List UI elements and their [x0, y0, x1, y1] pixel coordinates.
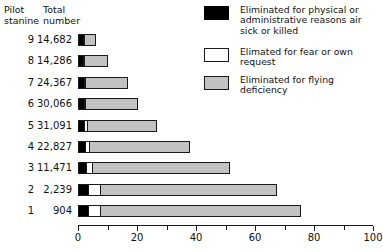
bar-stanine-5: [78, 120, 156, 132]
legend-label-physical: Eliminated for physical or administrativ…: [240, 5, 362, 36]
column-header-total-number: Total number: [43, 4, 80, 26]
legend-label-flying: Eliminated for flying deficiency: [240, 75, 334, 96]
legend-label-fear: Elimated for fear or own request: [240, 47, 353, 68]
x-axis-tick: [196, 226, 197, 231]
row-label-stanine: 8: [0, 56, 34, 66]
row-label-stanine: 7: [0, 78, 34, 88]
bar-segment-c2c2c2: [84, 55, 108, 67]
column-header-pilot-stanine: Pilot stanine: [4, 4, 39, 26]
bar-segment-c2c2c2: [85, 98, 138, 110]
x-axis-tick: [285, 226, 286, 230]
bar-stanine-9: [78, 34, 95, 46]
row-label-stanine: 4: [0, 142, 34, 152]
legend-item-flying: Eliminated for flying deficiency: [204, 75, 334, 96]
bar-segment-ffffff: [88, 205, 102, 217]
row-label-total-number: 2,239: [34, 185, 72, 195]
bar-segment-c2c2c2: [85, 77, 128, 89]
legend-swatch-flying: [204, 76, 229, 90]
x-axis-tick: [255, 226, 256, 231]
x-axis-tick-label: 60: [249, 232, 262, 243]
x-axis-tick: [373, 226, 374, 231]
row-label-total-number: 31,091: [34, 121, 72, 131]
row-label-stanine: 2: [0, 185, 34, 195]
bar-stanine-4: [78, 141, 189, 153]
bar-segment-c2c2c2: [87, 120, 156, 132]
row-label-stanine: 5: [0, 121, 34, 131]
bar-stanine-2: [78, 184, 276, 196]
bar-stanine-8: [78, 55, 107, 67]
x-axis-tick: [137, 226, 138, 231]
x-axis-tick-label: 100: [363, 232, 382, 243]
x-axis-tick-label: 0: [75, 232, 81, 243]
bar-segment-c2c2c2: [84, 34, 96, 46]
row-label-stanine: 6: [0, 99, 34, 109]
x-axis-tick: [167, 226, 168, 230]
row-label-total-number: 14,286: [34, 56, 72, 66]
bar-stanine-3: [78, 162, 229, 174]
row-label-total-number: 30,066: [34, 99, 72, 109]
x-axis-tick: [108, 226, 109, 230]
bar-stanine-1: [78, 205, 300, 217]
bar-segment-c2c2c2: [100, 205, 301, 217]
row-label-total-number: 11,471: [34, 163, 72, 173]
legend-swatch-physical: [204, 6, 229, 20]
x-axis-tick: [226, 226, 227, 230]
bar-segment-c2c2c2: [100, 184, 277, 196]
legend-item-physical: Eliminated for physical or administrativ…: [204, 5, 362, 36]
row-label-total-number: 22,827: [34, 142, 72, 152]
row-label-stanine: 9: [0, 35, 34, 45]
row-label-stanine: 3: [0, 163, 34, 173]
bar-stanine-6: [78, 98, 137, 110]
x-axis-tick: [78, 226, 79, 231]
x-axis-tick: [314, 226, 315, 231]
row-label-stanine: 1: [0, 206, 34, 216]
row-label-total-number: 24,367: [34, 78, 72, 88]
bar-stanine-7: [78, 77, 127, 89]
bar-segment-c2c2c2: [92, 162, 231, 174]
bar-segment-c2c2c2: [89, 141, 189, 153]
x-axis-tick: [344, 226, 345, 230]
x-axis-tick-label: 40: [190, 232, 203, 243]
x-axis-tick-label: 80: [308, 232, 321, 243]
row-label-total-number: 14,682: [34, 35, 72, 45]
bar-segment-ffffff: [88, 184, 102, 196]
x-axis-tick-label: 20: [131, 232, 144, 243]
row-label-total-number: 904: [34, 206, 72, 216]
legend-swatch-fear: [204, 48, 229, 62]
legend-item-fear: Elimated for fear or own request: [204, 47, 353, 68]
